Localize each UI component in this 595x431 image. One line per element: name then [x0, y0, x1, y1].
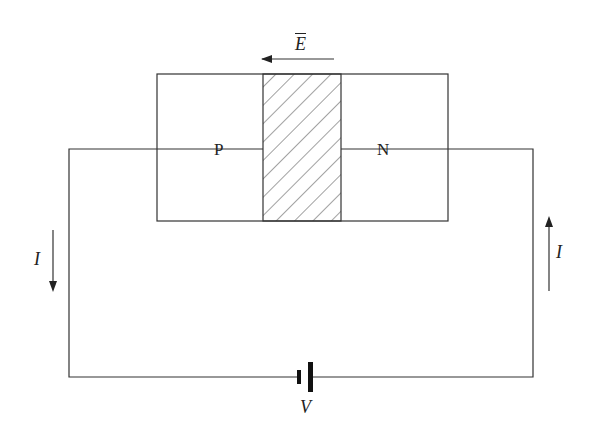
n-region-label: N [377, 141, 389, 158]
voltage-label: V [300, 398, 311, 416]
current-label-right: I [556, 243, 562, 261]
depletion-region [263, 74, 341, 221]
current-arrow-left-head [49, 281, 57, 292]
p-region-label: P [214, 141, 223, 158]
circuit-diagram [0, 0, 595, 431]
battery-positive-plate [308, 362, 313, 392]
right-wire [312, 149, 533, 377]
battery-negative-plate [297, 370, 301, 384]
field-arrow-head [261, 55, 272, 63]
current-arrow-right-head [545, 216, 553, 227]
electric-field-label: E [295, 35, 306, 53]
current-label-left: I [34, 250, 40, 268]
